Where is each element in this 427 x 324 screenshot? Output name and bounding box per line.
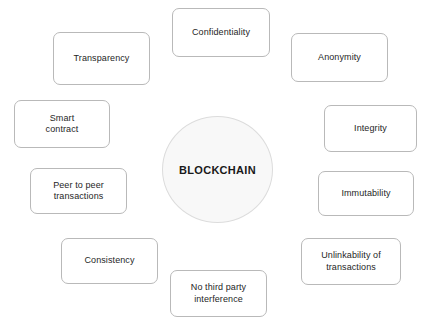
- node-label: Immutability: [341, 188, 390, 200]
- node-no-third-party-interference: No third party interference: [170, 270, 267, 317]
- node-label: Confidentiality: [192, 27, 250, 39]
- node-unlinkability-of-transactions: Unlinkability of transactions: [301, 238, 401, 285]
- node-label: Smart contract: [46, 113, 79, 136]
- node-integrity: Integrity: [324, 105, 417, 152]
- node-label: Unlinkability of transactions: [321, 250, 381, 273]
- blockchain-characteristics-diagram: BLOCKCHAIN Confidentiality Transparency …: [0, 0, 427, 324]
- node-immutability: Immutability: [318, 171, 414, 216]
- node-consistency: Consistency: [61, 238, 158, 284]
- node-label: No third party interference: [191, 282, 246, 305]
- node-anonymity: Anonymity: [291, 33, 388, 82]
- node-label: Peer to peer transactions: [53, 180, 104, 203]
- node-label: Anonymity: [318, 52, 361, 64]
- hub-circle-blockchain: BLOCKCHAIN: [162, 116, 273, 223]
- node-label: Integrity: [354, 123, 387, 135]
- node-transparency: Transparency: [53, 32, 150, 85]
- hub-label: BLOCKCHAIN: [179, 164, 256, 176]
- node-confidentiality: Confidentiality: [172, 8, 270, 57]
- node-label: Transparency: [74, 53, 130, 65]
- node-peer-to-peer-transactions: Peer to peer transactions: [30, 168, 127, 214]
- node-label: Consistency: [84, 255, 134, 267]
- node-smart-contract: Smart contract: [14, 100, 110, 148]
